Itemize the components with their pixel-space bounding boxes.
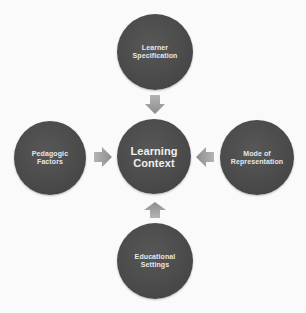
node-label-line-2: Representation (231, 158, 283, 166)
center-label-line-2: Context (133, 157, 175, 169)
learning-context-diagram: Learner Specification Pedagogic Factors (0, 0, 306, 313)
node-educational-settings: Educational Settings (117, 223, 193, 299)
arrow-right-icon (94, 147, 112, 167)
node-label-line-1: Mode of (243, 150, 271, 158)
node-label-line-2: Specification (133, 52, 178, 60)
arrow-left-icon (196, 147, 214, 167)
arrow-down-icon (145, 95, 165, 114)
arrow-up-icon (144, 202, 166, 218)
node-label-line-1: Pedagogic (32, 150, 68, 158)
center-label-line-1: Learning (130, 145, 177, 157)
node-mode-of-representation: Mode of Representation (220, 120, 294, 195)
node-label-line-1: Learner (142, 44, 168, 52)
node-label-line-1: Educational (135, 253, 176, 261)
node-learning-context: Learning Context (117, 119, 191, 194)
node-label-line-2: Factors (37, 158, 63, 166)
node-pedagogic-factors: Pedagogic Factors (14, 121, 86, 195)
node-label-line-2: Settings (141, 261, 169, 269)
node-learner-specification: Learner Specification (117, 14, 193, 90)
